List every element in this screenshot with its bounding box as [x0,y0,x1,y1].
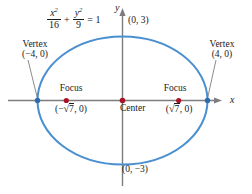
covertex-bottom-coord-text: (0, −3) [122,165,148,175]
focus-left-coord-text: (−√7, 0) [40,104,102,115]
vertex-right-leader-line [207,60,216,99]
vertex-left-coord-text: (−4, 0) [6,50,64,60]
x-axis-label: x [230,94,234,105]
focus-left-coord-prefix: (− [55,104,64,114]
ellipse-equation: x2 16 + y2 9 = 1 [46,7,102,30]
equation-equals-one: = 1 [87,13,100,25]
y-axis-arrow [119,8,125,16]
y-axis-label: y [115,2,119,13]
focus-right-label-text: Focus [152,84,198,94]
vertex-left-dot [35,98,40,103]
equation-y-exponent: 2 [79,6,82,13]
center-label-text: Center [120,104,164,114]
x-axis-arrow [214,97,222,103]
equation-x-exponent: 2 [55,6,58,13]
vertex-left-callout: Vertex (−4, 0) [6,40,64,60]
vertex-left-leader-line [28,60,38,99]
equation-fraction-x: x2 16 [47,7,61,30]
focus-right-coord-suffix: , 0) [180,104,193,114]
equation-plus-operator: + [64,13,70,25]
vertex-right-coord-text: (4, 0) [196,50,248,60]
vertex-right-dot [205,98,210,103]
vertex-right-callout: Vertex (4, 0) [196,40,248,60]
equation-x-denominator: 16 [47,19,61,31]
ellipse-figure: x2 16 + y2 9 = 1 y x Vertex (−4, 0) Vert… [0,0,252,194]
equation-fraction-y: y2 9 [73,7,85,30]
covertex-top-coord-text: (0, 3) [128,16,149,26]
focus-left-coord-suffix: , 0) [74,104,87,114]
focus-left-label-text: Focus [48,84,94,94]
equation-y-denominator: 9 [73,19,85,31]
